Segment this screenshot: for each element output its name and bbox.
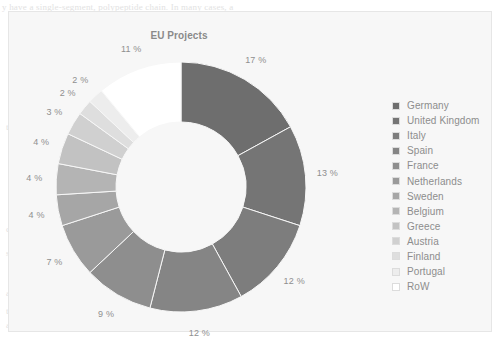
legend-item[interactable]: RoW <box>392 279 497 294</box>
legend-item-label: Germany <box>407 100 449 111</box>
slice-percentage-label: 13 % <box>317 168 338 178</box>
legend-item[interactable]: Germany <box>392 98 497 113</box>
slice-percentage-label: 9 % <box>98 309 114 319</box>
legend-item[interactable]: Finland <box>392 249 497 264</box>
legend-item-label: Austria <box>407 236 439 247</box>
slice-percentage-label: 2 % <box>60 88 76 98</box>
legend-item[interactable]: United Kingdom <box>392 113 497 128</box>
legend-item-label: Spain <box>407 145 433 156</box>
donut-chart: 17 %13 %12 %12 %9 %7 %4 %4 %4 %3 %2 %2 %… <box>25 50 337 325</box>
legend-item-label: Netherlands <box>407 176 462 187</box>
legend-color-swatch-icon <box>392 147 400 155</box>
legend-item-label: Greece <box>407 221 440 232</box>
legend-item-label: United Kingdom <box>407 115 480 126</box>
legend-item[interactable]: Italy <box>392 128 497 143</box>
legend-item[interactable]: Greece <box>392 219 497 234</box>
slice-percentage-label: 4 % <box>29 210 45 220</box>
legend-item-label: France <box>407 160 439 171</box>
legend-item[interactable]: France <box>392 158 497 173</box>
legend-color-swatch-icon <box>392 117 400 125</box>
legend-item[interactable]: Netherlands <box>392 173 497 188</box>
legend-item[interactable]: Portugal <box>392 264 497 279</box>
legend-color-swatch-icon <box>392 162 400 170</box>
chart-legend: GermanyUnited KingdomItalySpainFranceNet… <box>392 98 497 294</box>
legend-item-label: Portugal <box>407 266 445 277</box>
legend-item[interactable]: Spain <box>392 143 497 158</box>
slice-percentage-label: 7 % <box>46 257 62 267</box>
slice-percentage-label: 12 % <box>284 276 305 286</box>
chart-panel: EU Projects 17 %13 %12 %12 %9 %7 %4 %4 %… <box>8 11 492 332</box>
legend-color-swatch-icon <box>392 252 400 260</box>
legend-item-label: Belgium <box>407 206 444 217</box>
legend-color-swatch-icon <box>392 268 400 276</box>
slice-percentage-label: 2 % <box>72 75 88 85</box>
legend-color-swatch-icon <box>392 207 400 215</box>
slice-percentage-label: 4 % <box>33 137 49 147</box>
legend-item-label: Italy <box>407 130 426 141</box>
slice-percentage-label: 4 % <box>26 173 42 183</box>
legend-color-swatch-icon <box>392 192 400 200</box>
legend-item[interactable]: Sweden <box>392 189 497 204</box>
legend-color-swatch-icon <box>392 132 400 140</box>
legend-color-swatch-icon <box>392 237 400 245</box>
slice-percentage-label: 3 % <box>46 107 62 117</box>
legend-color-swatch-icon <box>392 177 400 185</box>
legend-item[interactable]: Austria <box>392 234 497 249</box>
legend-item[interactable]: Belgium <box>392 204 497 219</box>
legend-color-swatch-icon <box>392 102 400 110</box>
legend-item-label: Finland <box>407 251 441 262</box>
chart-title: EU Projects <box>9 30 349 41</box>
legend-color-swatch-icon <box>392 222 400 230</box>
legend-item-label: RoW <box>407 281 430 292</box>
legend-color-swatch-icon <box>392 283 400 291</box>
slice-percentage-label: 11 % <box>121 44 142 54</box>
legend-item-label: Sweden <box>407 191 444 202</box>
slice-percentage-label: 17 % <box>245 55 266 65</box>
slice-percentage-label: 12 % <box>189 328 210 338</box>
